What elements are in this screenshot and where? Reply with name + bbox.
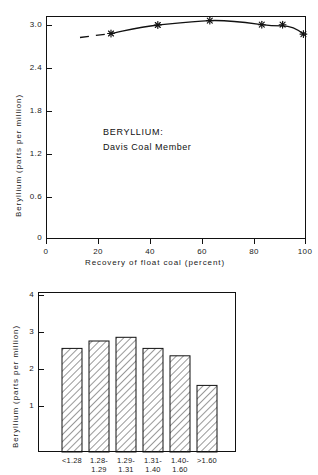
bar-5	[197, 385, 217, 452]
data-point-3	[258, 21, 265, 28]
data-point-1	[154, 22, 161, 29]
bar-3	[143, 348, 163, 452]
bar-1	[89, 341, 109, 452]
recovery-curve-chart: 3.0 2.4 1.8 1.2 0.6 0 0 20 40 60 80 100 …	[0, 0, 318, 270]
specific-gravity-bars	[0, 270, 318, 475]
recovery-curve-series	[0, 0, 318, 270]
data-point-4	[279, 21, 286, 28]
specific-gravity-bar-chart: 4 3 2 1 Beryllium (parts per million) <1…	[0, 270, 318, 475]
data-point-5	[300, 31, 307, 38]
category-label-4-line2: 1.60	[160, 465, 200, 474]
category-label-5-line1: >1.60	[187, 456, 227, 465]
bar-2	[116, 337, 136, 452]
bar-0	[62, 348, 82, 452]
recovery-curve-markers	[108, 17, 307, 37]
category-label-5: >1.60	[187, 456, 227, 465]
recovery-curve-leadin-dashed	[80, 34, 111, 38]
bar-4	[170, 356, 190, 452]
data-point-0	[108, 30, 115, 37]
data-point-2	[206, 17, 213, 24]
